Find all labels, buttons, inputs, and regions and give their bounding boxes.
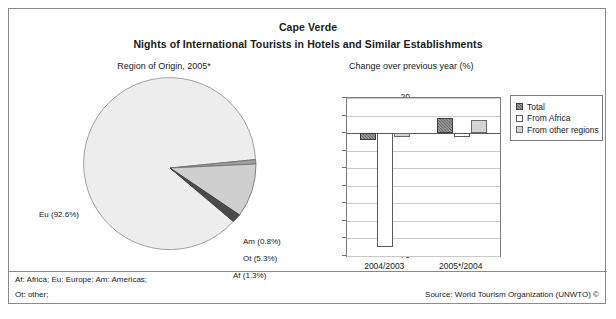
bar-total-1: [437, 118, 453, 133]
bar-chart-plot-area: [346, 97, 501, 257]
footnote-line-1: Af: Africa; Eu: Europe; Am: Americas;: [15, 275, 147, 284]
gridline--40: [347, 203, 500, 204]
bar-from-africa-1: [454, 133, 470, 137]
footnote-line-2: Ot: other;: [15, 290, 48, 299]
legend-label-total: Total: [527, 102, 545, 112]
pie-label-af: Af (1.3%): [233, 271, 266, 280]
pie-label-am: Am (0.8%): [243, 237, 281, 246]
legend-swatch-total: [516, 103, 523, 110]
gridline--10: [347, 151, 500, 152]
gridline--70: [347, 256, 500, 257]
page-title: Cape Verde: [9, 21, 607, 33]
gridline-10: [347, 116, 500, 117]
page-subtitle: Nights of International Tourists in Hote…: [9, 38, 607, 50]
pie-chart-svg: [17, 77, 317, 257]
bar-chart-legend: Total From Africa From other regions: [510, 95, 603, 141]
legend-swatch-from-africa: [516, 115, 523, 122]
pie-chart: Eu (92.6%) Am (0.8%) Ot (5.3%) Af (1.3%): [17, 77, 317, 257]
chart-page: Cape Verde Nights of International Touri…: [0, 0, 616, 319]
legend-label-from-other-regions: From other regions: [527, 125, 599, 135]
gridline--60: [347, 238, 500, 239]
bar-chart-x-label-0: 2004/2003: [346, 261, 423, 271]
bar-chart-title: Change over previous year (%): [349, 61, 549, 71]
pie-chart-title: Region of Origin, 2005*: [69, 61, 259, 71]
legend-swatch-from-other-regions: [516, 126, 523, 133]
legend-item-total: Total: [516, 102, 598, 112]
legend-item-from-africa: From Africa: [516, 113, 598, 123]
bar-chart: 20100-10-20-30-40-50-60-70 2004/2003 200…: [314, 87, 604, 277]
bar-from-other-regions-0: [394, 133, 410, 137]
bar-from-other-regions-1: [471, 120, 487, 133]
source-note: Source: World Tourism Organization (UNWT…: [425, 290, 599, 299]
gridline--20: [347, 168, 500, 169]
gridline--50: [347, 221, 500, 222]
legend-label-from-africa: From Africa: [527, 113, 570, 123]
pie-label-eu: Eu (92.6%): [39, 210, 79, 219]
footer-divider: [9, 271, 607, 272]
pie-label-ot: Ot (5.3%): [243, 254, 277, 263]
bar-chart-x-label-1: 2005*/2004: [423, 261, 500, 271]
gridline--30: [347, 186, 500, 187]
bar-from-africa-0: [377, 133, 393, 247]
gridline-20: [347, 98, 500, 99]
legend-item-from-other-regions: From other regions: [516, 125, 598, 135]
chart-frame: Cape Verde Nights of International Touri…: [8, 8, 606, 304]
bar-total-0: [360, 133, 376, 140]
